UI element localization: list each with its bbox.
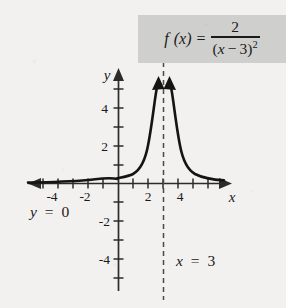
formula-fraction: 2 (x − 3)2 [211,19,260,57]
y-tick-label-2: 2 [101,139,108,154]
right-branch-arrowhead [164,76,177,90]
y-equals-zero-lhs: y [28,203,37,220]
y-axis-top-arrowhead [113,68,124,81]
x-tick-label--4: -4 [46,189,57,204]
svg-text:y = 0: y = 0 [28,203,69,220]
rational-function-figure: -4 -2 2 4 4 2 -2 -4 x y y = 0 x = 3 [0,0,286,308]
horizontal-asymptote-label: y = 0 [28,203,69,220]
vertical-asymptote-label: x = 3 [175,252,215,269]
x-tick-label--2: -2 [79,189,90,204]
y-equals-zero-eq: = [45,203,54,220]
x-axis-label: x [228,189,236,205]
x-equals-three-rhs: 3 [207,252,215,269]
formula-function-arg: (x) [174,30,192,48]
formula-denominator: (x − 3)2 [211,39,260,57]
formula-den-minus: − [228,40,237,57]
formula-callout: f(x) = 2 (x − 3)2 [138,15,286,63]
formula-equals: = [196,30,205,48]
x-equals-three-eq: = [191,252,200,269]
formula-numerator: 2 [227,19,243,35]
x-tick-label-2: 2 [145,189,152,204]
y-tick-label--2: -2 [99,214,110,229]
formula-fraction-bar [211,36,260,37]
formula-den-variable: x [218,40,225,57]
formula-function-name: f [164,30,168,48]
svg-text:x = 3: x = 3 [175,252,215,269]
curve-right-branch [164,76,225,180]
y-axis-label: y [102,67,111,83]
left-branch-arrowhead [152,76,165,90]
y-tick-label-4: 4 [101,101,108,116]
x-tick-label-4: 4 [177,189,184,204]
curve-left-branch [28,76,165,183]
y-tick-label--4: -4 [99,252,110,267]
formula-den-exponent: 2 [252,39,257,50]
x-axis [28,178,232,189]
y-equals-zero-rhs: 0 [61,203,69,220]
x-equals-three-lhs: x [175,252,183,269]
